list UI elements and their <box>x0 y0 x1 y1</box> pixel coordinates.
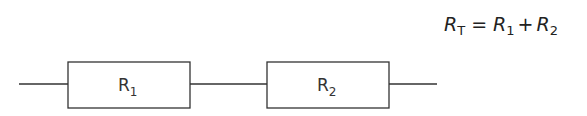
resistor-r1-label: R1 <box>118 75 137 99</box>
resistor-r2-label: R2 <box>317 75 336 99</box>
series-circuit-diagram: R1 R2 RT=R1+R2 <box>0 0 587 116</box>
total-resistance-formula: RT=R1+R2 <box>444 13 558 38</box>
